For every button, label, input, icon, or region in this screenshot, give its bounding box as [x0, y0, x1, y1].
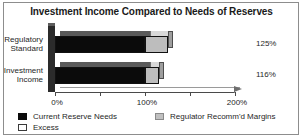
category-label-investment-income: Investment Income — [4, 66, 43, 84]
axis-line-back — [60, 87, 240, 88]
bar2-segment-current-reserve-needs — [55, 67, 145, 84]
legend-label-regulator-margins: Regulator Recomm'd Margins — [170, 112, 276, 121]
bar2-segment-regulator-margins — [145, 67, 159, 84]
x-tick-100 — [145, 92, 146, 96]
x-tick-label-200: 200% — [227, 98, 247, 107]
legend-item-regulator-margins: Regulator Recomm'd Margins — [155, 112, 276, 121]
legend-swatch-black-icon — [18, 113, 27, 120]
legend-label-current-reserve-needs: Current Reserve Needs — [33, 112, 117, 121]
category-label-line2: Income — [4, 75, 43, 84]
category-label-line2: Standard — [4, 44, 43, 53]
legend-label-excess: Excess — [33, 123, 59, 132]
x-tick-50 — [100, 92, 101, 96]
chart-title: Investment Income Compared to Needs of R… — [0, 6, 303, 17]
category-label-regulatory-standard: Regulatory Standard — [4, 35, 43, 53]
bar1-side-face — [168, 31, 173, 48]
bar1-segment-regulator-margins — [145, 36, 168, 53]
axis-wall-3d — [48, 26, 55, 92]
data-label-regulatory-standard: 125% — [256, 39, 276, 48]
x-tick-0 — [55, 92, 56, 96]
chart-container: Investment Income Compared to Needs of R… — [0, 0, 303, 139]
chart-legend: Current Reserve Needs Excess Regulator R… — [18, 112, 288, 134]
plot-area: 0% 100% 200% — [48, 26, 246, 96]
bar2-side-face — [159, 62, 164, 79]
x-tick-label-0: 0% — [51, 98, 63, 107]
bar1-segment-current-reserve-needs — [55, 36, 145, 53]
axis-wall-top-face — [48, 23, 55, 26]
data-label-investment-income: 116% — [256, 70, 276, 79]
legend-swatch-gray-icon — [155, 113, 164, 120]
x-tick-200 — [235, 92, 236, 96]
legend-item-current-reserve-needs: Current Reserve Needs — [18, 112, 117, 121]
x-tick-label-100: 100% — [137, 98, 157, 107]
category-label-line1: Investment — [4, 66, 43, 75]
category-label-line1: Regulatory — [4, 35, 43, 44]
x-tick-150 — [190, 92, 191, 96]
legend-swatch-white-icon — [18, 124, 27, 131]
legend-item-excess: Excess — [18, 123, 59, 132]
